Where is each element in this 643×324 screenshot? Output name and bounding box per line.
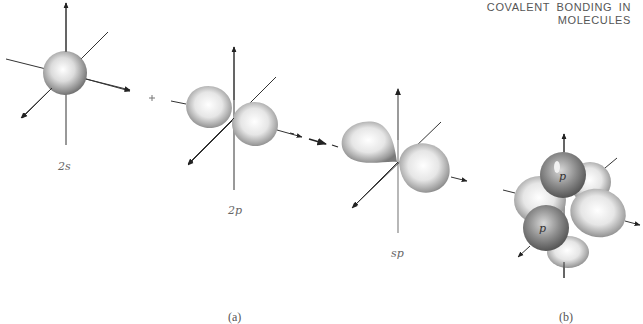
label-sp: sp — [391, 247, 404, 260]
orbital-sp — [342, 89, 467, 233]
plus-sign-icon — [149, 95, 155, 101]
label-p-bottom: p — [539, 222, 546, 235]
hybrid-orbital-cluster — [503, 134, 640, 278]
transition-arrow-icon — [290, 133, 338, 147]
label-2s: 2s — [58, 160, 71, 173]
orbital-2p — [171, 47, 302, 190]
orbital-diagram — [0, 0, 643, 324]
label-p-top: p — [559, 170, 566, 183]
orbital-2s — [6, 3, 130, 145]
label-2p: 2p — [228, 204, 242, 217]
caption-a: (a) — [228, 310, 241, 324]
caption-b: (b) — [559, 310, 573, 324]
